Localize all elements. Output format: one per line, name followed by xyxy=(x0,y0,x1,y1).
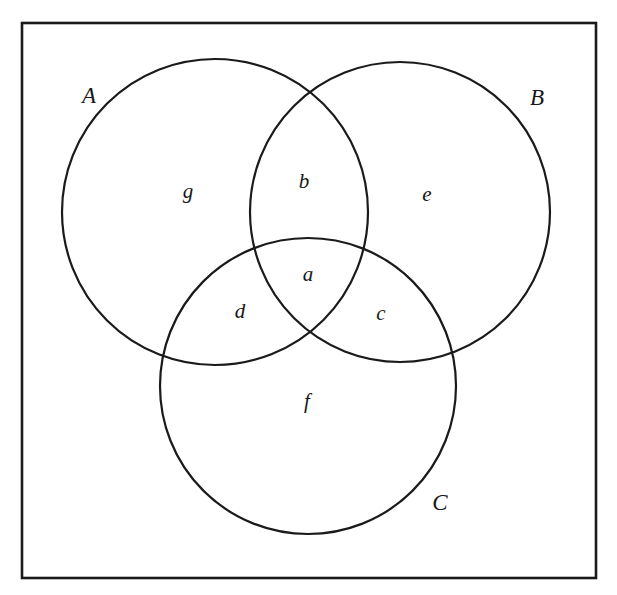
region-label-f: f xyxy=(304,389,313,413)
region-label-c: c xyxy=(376,301,386,325)
region-label-d: d xyxy=(235,299,246,323)
universal-set-rectangle xyxy=(22,23,596,578)
region-label-a: a xyxy=(303,262,314,286)
region-label-e: e xyxy=(422,182,431,206)
set-label-c: C xyxy=(432,490,448,515)
set-label-a: A xyxy=(80,83,97,108)
region-label-g: g xyxy=(183,179,194,203)
venn-diagram-figure: A B C a b c d e f g xyxy=(0,0,617,595)
set-label-b: B xyxy=(530,85,544,110)
set-circle-b xyxy=(250,62,550,362)
set-circle-a xyxy=(62,59,368,365)
region-label-b: b xyxy=(299,169,310,193)
venn-diagram-canvas: A B C a b c d e f g xyxy=(0,0,617,595)
